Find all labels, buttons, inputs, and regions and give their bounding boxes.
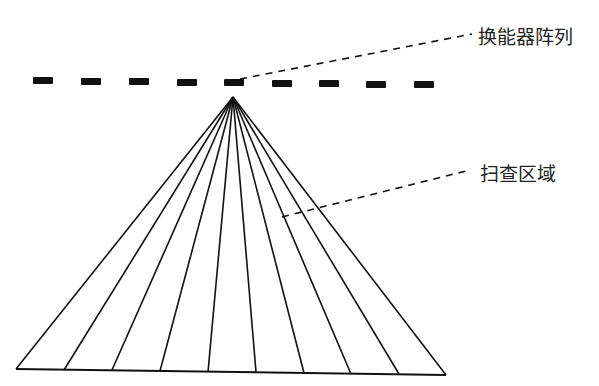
- sonar-diagram: [0, 0, 599, 386]
- scan-area-label: 扫查区域: [480, 159, 556, 186]
- leader-scan-area: [282, 170, 470, 217]
- transducer-array-label: 换能器阵列: [478, 22, 573, 49]
- scan-fan: [16, 97, 446, 375]
- transducer-array: [33, 77, 434, 88]
- leader-transducer: [240, 34, 472, 79]
- leader-lines: [240, 34, 472, 217]
